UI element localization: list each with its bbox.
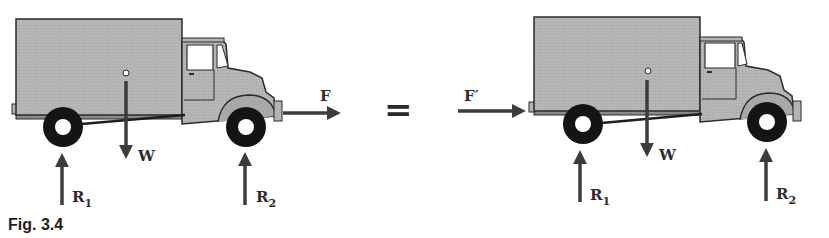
right-truck	[529, 17, 801, 144]
cab-roof	[182, 38, 224, 42]
applied-force-label: F	[320, 87, 331, 105]
weight-label: W	[137, 147, 156, 165]
door-handle	[189, 73, 194, 75]
cargo-box	[16, 19, 182, 115]
shifted-force-label: F′	[464, 87, 479, 105]
rear-wheel	[43, 107, 83, 147]
rear-wheel	[563, 104, 603, 144]
cab-roof	[700, 37, 742, 41]
door-handle	[707, 71, 712, 73]
rear-reaction-label: R1	[590, 186, 610, 208]
figure-caption: Fig. 3.4	[8, 216, 63, 233]
equals-sign: =	[384, 89, 413, 129]
weight-label: W	[658, 146, 677, 164]
front-wheel	[747, 102, 787, 142]
front-bumper	[274, 101, 282, 121]
cab-window	[187, 45, 213, 70]
rear-reaction-label: R1	[72, 188, 92, 210]
truck-force-diagram: W F R1 R2 =	[0, 0, 829, 238]
center-of-gravity-dot	[123, 70, 129, 76]
center-of-gravity-dot	[645, 68, 651, 74]
front-reaction-label: R2	[776, 185, 796, 207]
front-wheel	[226, 107, 266, 147]
cargo-box	[534, 17, 700, 111]
left-truck	[12, 19, 282, 147]
front-reaction-label: R2	[256, 188, 276, 210]
cab-window	[705, 43, 735, 68]
front-bumper	[793, 101, 801, 121]
